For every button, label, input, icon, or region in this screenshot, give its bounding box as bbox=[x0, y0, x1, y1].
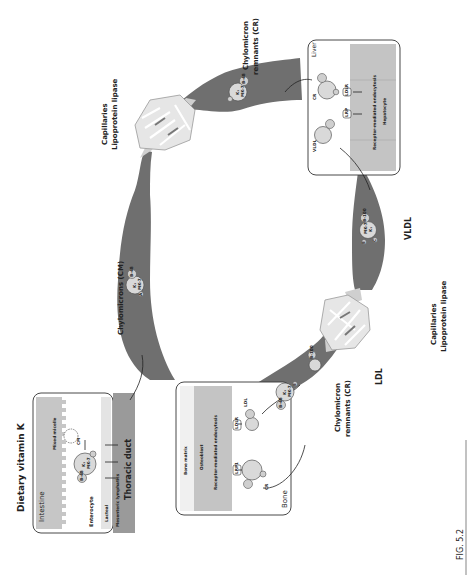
particle-crb-e: E bbox=[292, 383, 297, 386]
particle-vldl-k1: K₁ bbox=[368, 227, 373, 232]
particle-cm-mk7: MK-7 bbox=[137, 278, 142, 290]
bone-e bbox=[260, 471, 266, 477]
particle-crb-b48: B-48 bbox=[278, 397, 283, 408]
label-mesenteric-lymphatics: Mesenteric lymphatics bbox=[115, 473, 120, 527]
particle-crt-b48: B-48 bbox=[241, 73, 246, 84]
label-bone-ldl: LDL bbox=[243, 398, 248, 407]
label-lpl-top: Lipoprotein lipase bbox=[111, 78, 119, 150]
label-cr-bottom-2: remnants (CR) bbox=[344, 380, 352, 437]
label-bone-ldlr: LDLR bbox=[234, 416, 239, 429]
particle-mk7: MK-7 bbox=[86, 457, 91, 469]
label-liver-cr: CR bbox=[312, 93, 317, 100]
label-capillaries-top: Capillaries bbox=[101, 103, 109, 145]
label-liver: Liver bbox=[310, 42, 317, 57]
label-cr-top-2: remnants (CR) bbox=[252, 18, 260, 75]
label-vldl: VLDL bbox=[404, 217, 413, 240]
particle-ldl-b100: B-100 bbox=[309, 345, 314, 359]
label-bone-rme: Receptor-mediated endocytosis bbox=[213, 414, 218, 490]
label-cr-bottom-1: Chylomicron bbox=[334, 383, 342, 432]
a-apoprotein bbox=[90, 451, 96, 457]
label-hepatocyte: Hepatocyte bbox=[382, 98, 387, 125]
liver-e bbox=[333, 89, 339, 95]
label-lrp: LRP bbox=[344, 108, 349, 117]
label-intestine: Intestine bbox=[38, 491, 46, 522]
bone-ldl-particle bbox=[246, 418, 259, 431]
label-ldl: LDL bbox=[375, 368, 384, 385]
label-bone: Bone bbox=[281, 490, 289, 508]
label-cr-top-1: Chylomicron bbox=[242, 21, 250, 70]
figure-caption: FIG. 5.2 bbox=[456, 529, 465, 560]
particle-b48: B-48 bbox=[79, 470, 84, 481]
particle-cm-b48: B-48 bbox=[129, 266, 134, 277]
label-bone-lrp1: LRP1 bbox=[234, 462, 239, 474]
bone-b100 bbox=[246, 410, 255, 419]
label-capillaries-bottom: Capillaries bbox=[430, 303, 438, 345]
particle-crt-mk7: MK-7 bbox=[240, 85, 245, 97]
particle-vldl-c: C bbox=[372, 239, 377, 242]
label-chylomicrons: Chylomicrons (CM) bbox=[117, 261, 125, 335]
bone-cr-particle bbox=[242, 460, 262, 480]
liver-vldl-particle bbox=[315, 127, 332, 144]
label-lpl-bottom: Lipoprotein lipase bbox=[440, 280, 448, 352]
label-cm-small: CM bbox=[76, 438, 81, 445]
label-enterocyte: Enterocyte bbox=[88, 496, 95, 527]
label-osteoblast: Osteoblast bbox=[199, 444, 204, 470]
label-dietary-vitamin-k: Dietary vitamin K bbox=[16, 422, 26, 512]
particle-vldl-e: E bbox=[361, 241, 366, 244]
label-mixed-micelle: Mixed micelle bbox=[52, 417, 57, 450]
vitamin-k-transport-diagram: Dietary vitamin K Intestine Mixed micell… bbox=[0, 0, 469, 579]
capillaries-top bbox=[135, 95, 196, 158]
label-liver-rme: Receptor-mediated endocytosis bbox=[372, 74, 377, 150]
liver-b48 bbox=[318, 74, 327, 83]
particle-vldl-b100: B-100 bbox=[362, 208, 367, 222]
label-bone-matrix: Bone matrix bbox=[183, 446, 188, 475]
label-liver-vldl: VLDL bbox=[312, 140, 317, 152]
label-bone-cr: CR bbox=[264, 483, 269, 490]
bone-b48 bbox=[244, 480, 253, 489]
label-ldlr-liver: LDLR bbox=[344, 83, 349, 96]
liver-b100 bbox=[326, 120, 335, 129]
liver-cr-particle bbox=[318, 81, 336, 99]
label-thoracic-duct: Thoracic duct bbox=[124, 439, 133, 500]
vessel-chylomicrons bbox=[117, 150, 175, 380]
capillaries-bottom bbox=[320, 288, 370, 352]
label-lacteal: Lacteal bbox=[104, 504, 109, 522]
